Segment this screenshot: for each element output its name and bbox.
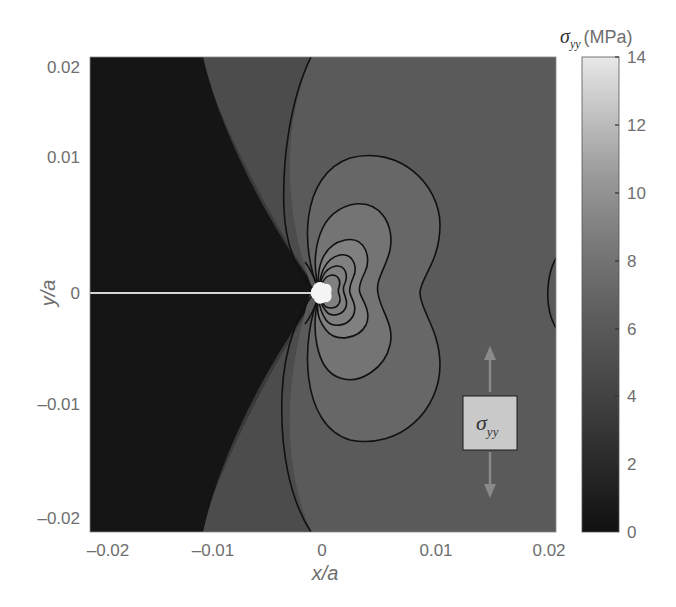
colorbar-tick-label: 0 — [627, 523, 636, 542]
x-tick-label: 0.01 — [419, 541, 452, 560]
colorbar-tick-label: 2 — [627, 455, 636, 474]
stress-element-square — [463, 396, 517, 450]
y-tick-label: –0.02 — [37, 509, 80, 528]
colorbar: 14 12 10 8 6 4 2 0 σyy(MPa) — [560, 25, 646, 542]
colorbar-tick-label: 10 — [627, 184, 646, 203]
x-tick-label: –0.02 — [87, 541, 130, 560]
contour-figure: σyy 0.02 0.01 0 –0.01 –0.02 y/a –0.02 –0… — [0, 0, 676, 607]
colorbar-tick-label: 4 — [627, 387, 636, 406]
plot-area: σyy — [90, 57, 556, 532]
y-tick-label: 0 — [71, 284, 80, 303]
x-tick-label: 0 — [317, 541, 326, 560]
colorbar-tick-label: 6 — [627, 320, 636, 339]
x-axis: –0.02 –0.01 0 0.01 0.02 x/a — [87, 541, 566, 584]
y-tick-label: –0.01 — [37, 395, 80, 414]
y-tick-label: 0.01 — [47, 148, 80, 167]
y-axis: 0.02 0.01 0 –0.01 –0.02 y/a — [37, 58, 80, 528]
colorbar-tick-label: 12 — [627, 116, 646, 135]
x-axis-label: x/a — [311, 562, 339, 584]
y-axis-label: y/a — [37, 280, 59, 309]
x-tick-label: –0.01 — [192, 541, 235, 560]
colorbar-tick-label: 14 — [627, 48, 646, 67]
colorbar-tick-label: 8 — [627, 252, 636, 271]
y-tick-label: 0.02 — [47, 58, 80, 77]
x-tick-label: 0.02 — [532, 541, 565, 560]
colorbar-title: σyy(MPa) — [560, 25, 633, 51]
colorbar-gradient — [582, 57, 619, 532]
